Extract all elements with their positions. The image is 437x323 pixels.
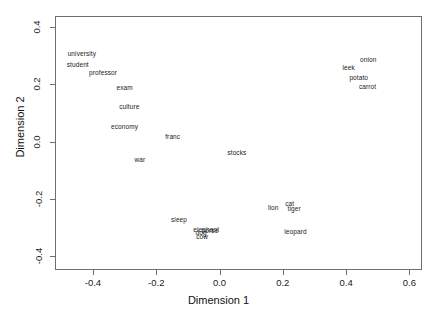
data-point-layer: universitystudentprofessorexamcultureeco… (55, 16, 422, 270)
data-point-label: tiger (288, 204, 301, 211)
y-axis-tick (50, 199, 55, 200)
scatter-plot-figure: universitystudentprofessorexamcultureeco… (0, 0, 437, 323)
data-point-label: leopard (284, 227, 306, 234)
x-axis-tick (283, 270, 284, 275)
x-axis-tick-label: -0.2 (148, 277, 164, 288)
y-axis-tick-label: 0.0 (31, 135, 42, 148)
data-point-label: cow (196, 232, 208, 239)
x-axis-title: Dimension 1 (0, 294, 437, 306)
data-point-label: franc (165, 133, 180, 140)
y-axis-title: Dimension 2 (14, 47, 26, 207)
data-point-label: lion (268, 203, 279, 210)
x-axis-tick (156, 270, 157, 275)
data-point-label: university (68, 50, 96, 57)
data-point-label: potato (349, 73, 368, 80)
x-axis-tick-label: 0.2 (276, 277, 289, 288)
x-axis-tick-label: 0.0 (213, 277, 226, 288)
y-axis-tick (50, 142, 55, 143)
x-axis-tick (409, 270, 410, 275)
x-axis-tick (346, 270, 347, 275)
x-axis-tick-label: 0.6 (403, 277, 416, 288)
y-axis-tick (50, 84, 55, 85)
data-point-label: student (67, 60, 89, 67)
data-point-label: war (134, 156, 145, 163)
data-point-label: sleep (171, 216, 187, 223)
data-point-label: leek (342, 63, 354, 70)
x-axis-tick (220, 270, 221, 275)
y-axis-tick-label: 0.2 (31, 78, 42, 91)
y-axis-tick-label: -0.4 (33, 248, 44, 264)
x-axis-tick (93, 270, 94, 275)
data-point-label: culture (119, 103, 139, 110)
data-point-label: economy (111, 123, 138, 130)
x-axis-tick-label: 0.4 (339, 277, 352, 288)
y-axis-tick-label: -0.2 (33, 190, 44, 206)
data-point-label: stocks (227, 149, 246, 156)
data-point-label: carrot (359, 82, 376, 89)
y-axis-tick (50, 27, 55, 28)
y-axis-tick-label: 0.4 (31, 21, 42, 34)
data-point-label: exam (116, 84, 132, 91)
data-point-label: professor (89, 69, 117, 76)
data-point-label: onion (360, 56, 376, 63)
x-axis-tick-label: -0.4 (85, 277, 101, 288)
y-axis-tick (50, 256, 55, 257)
